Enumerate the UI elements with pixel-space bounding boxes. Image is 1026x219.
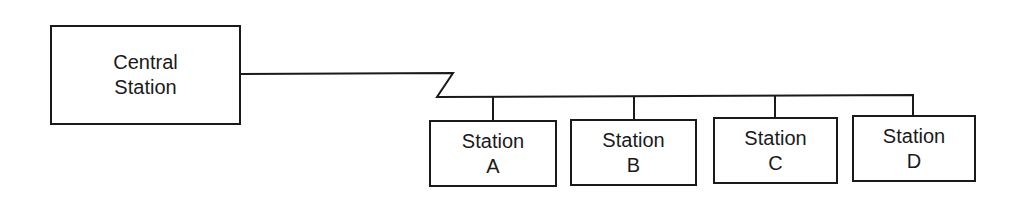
station-d-box: Station D	[852, 115, 976, 182]
station-b-box: Station B	[570, 119, 697, 186]
central-station-label-line1: Central	[113, 50, 177, 75]
station-a-box: Station A	[429, 120, 557, 187]
station-a-label-line2: A	[486, 154, 499, 179]
station-c-label-line2: C	[768, 151, 782, 176]
station-a-label-line1: Station	[462, 129, 524, 154]
station-c-label-line1: Station	[744, 126, 806, 151]
station-c-box: Station C	[713, 117, 838, 184]
central-station-label-line2: Station	[114, 75, 176, 100]
station-b-label-line1: Station	[602, 128, 664, 153]
station-b-label-line2: B	[627, 153, 640, 178]
station-d-label-line2: D	[907, 149, 921, 174]
central-station-box: Central Station	[50, 25, 241, 125]
central-link-line	[240, 73, 913, 115]
station-d-label-line1: Station	[883, 124, 945, 149]
